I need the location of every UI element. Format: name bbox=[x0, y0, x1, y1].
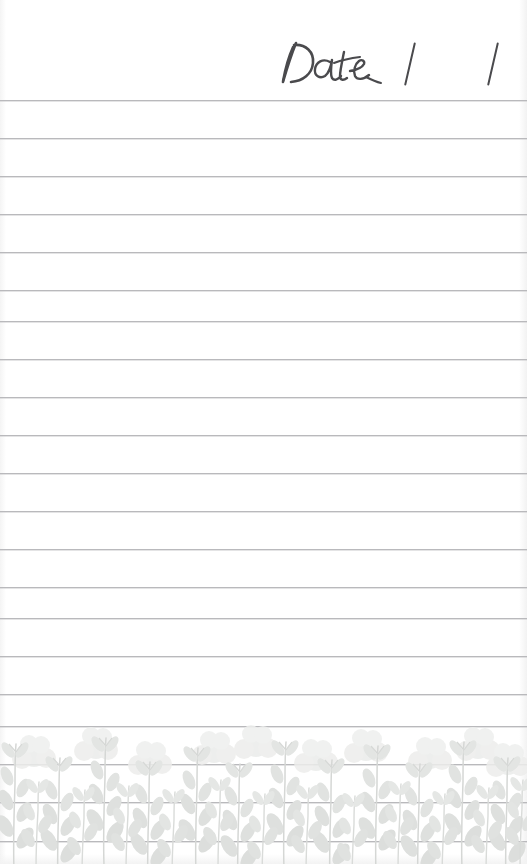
ruled-line bbox=[0, 252, 527, 253]
ruled-line bbox=[0, 138, 527, 139]
date-script-glyph bbox=[274, 38, 384, 90]
ruled-line bbox=[0, 587, 527, 588]
ruled-line bbox=[0, 397, 527, 398]
ruled-line bbox=[0, 511, 527, 512]
ruled-lines bbox=[0, 0, 527, 864]
ruled-line bbox=[0, 549, 527, 550]
page-edge-shading-right bbox=[519, 0, 527, 864]
page-edge-shading-bottom bbox=[0, 854, 527, 864]
page-edge-shading-left bbox=[0, 0, 6, 864]
ruled-line bbox=[0, 656, 527, 657]
ruled-line bbox=[0, 290, 527, 291]
ruled-line bbox=[0, 435, 527, 436]
ruled-line bbox=[0, 321, 527, 322]
ruled-line bbox=[0, 802, 527, 803]
date-label bbox=[274, 38, 384, 90]
ruled-line bbox=[0, 694, 527, 695]
ruled-line bbox=[0, 359, 527, 360]
date-separator-2 bbox=[487, 42, 499, 85]
ruled-line bbox=[0, 214, 527, 215]
ruled-line bbox=[0, 841, 527, 842]
ruled-line bbox=[0, 176, 527, 177]
notepad-page bbox=[0, 0, 527, 864]
date-header bbox=[0, 0, 527, 100]
ruled-line bbox=[0, 100, 527, 101]
wildflower-border bbox=[0, 714, 527, 864]
date-separator-1 bbox=[404, 42, 416, 85]
ruled-line bbox=[0, 726, 527, 727]
ruled-line bbox=[0, 618, 527, 619]
wildflower-border-art bbox=[0, 714, 527, 864]
ruled-line bbox=[0, 473, 527, 474]
ruled-line bbox=[0, 764, 527, 765]
